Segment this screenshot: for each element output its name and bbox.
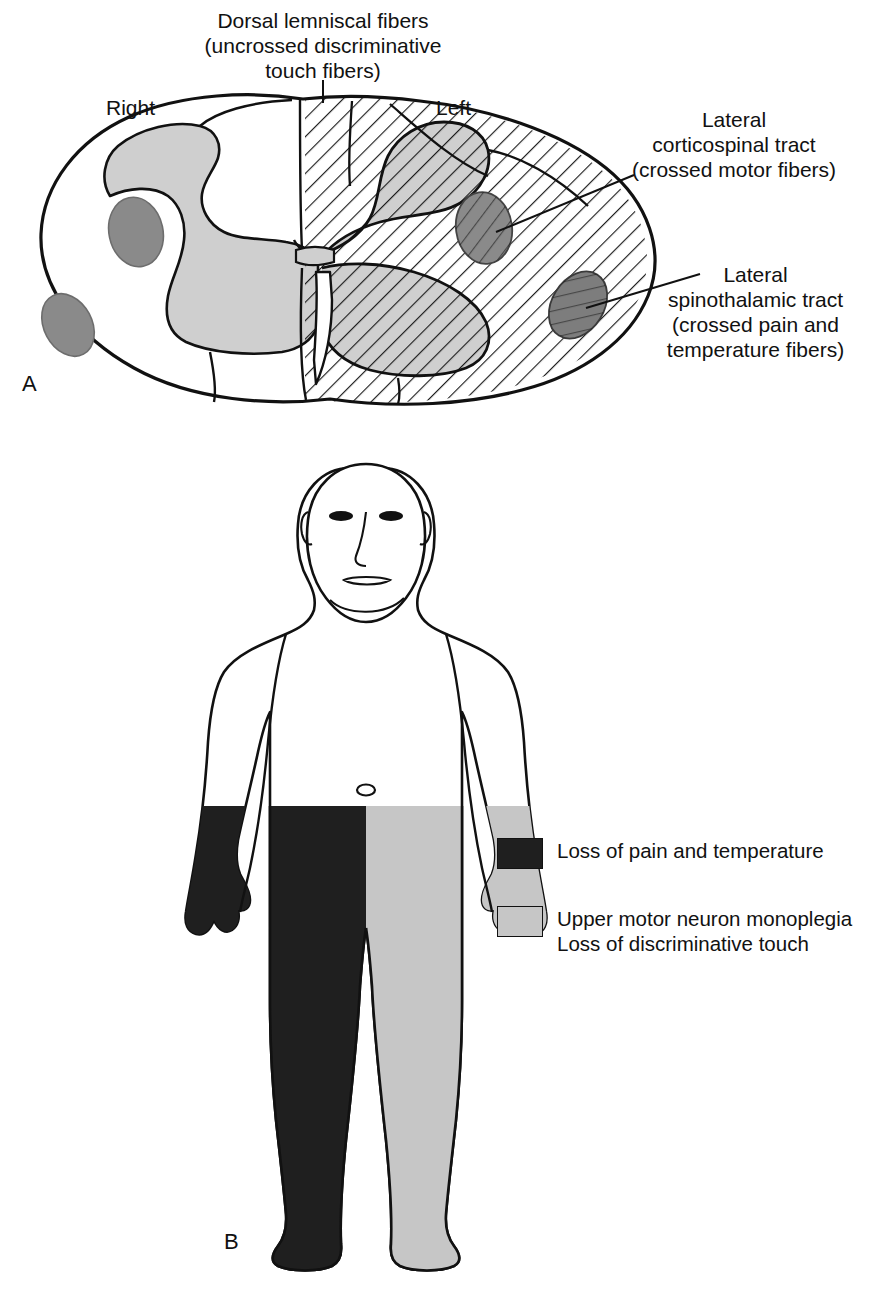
legend-swatch-pain-temperature [497, 838, 543, 869]
gray-commissure [296, 247, 334, 265]
human-body-figure [150, 464, 596, 1286]
callout-lateral-corticospinal: Lateral corticospinal tract (crossed mot… [600, 107, 868, 182]
legend-label-pain-temperature: Loss of pain and temperature [557, 838, 824, 863]
brown-sequard-figure [0, 0, 873, 1291]
eye-left [329, 511, 353, 521]
eye-right [379, 511, 403, 521]
region-loss-pain-temperature [150, 806, 366, 1286]
region-umn-monoplegia [366, 806, 596, 1286]
mouth [344, 577, 390, 585]
head-outline [307, 464, 425, 622]
legend-label-monoplegia: Upper motor neuron monoplegia Loss of di… [557, 906, 852, 956]
legend-row-pain-temperature: Loss of pain and temperature [497, 838, 824, 869]
panel-letter-b: B [224, 1229, 239, 1255]
side-label-left: Left [436, 95, 471, 120]
side-label-right: Right [106, 95, 155, 120]
legend-row-monoplegia: Upper motor neuron monoplegia Loss of di… [497, 906, 852, 956]
callout-lateral-spinothalamic: Lateral spinothalamic tract (crossed pai… [638, 262, 873, 362]
spinal-cord-cross-section [31, 80, 685, 420]
navel [357, 785, 375, 796]
legend-swatch-monoplegia [497, 906, 543, 937]
panel-letter-a: A [22, 371, 37, 397]
callout-dorsal-lemniscal: Dorsal lemniscal fibers (uncrossed discr… [173, 8, 473, 83]
